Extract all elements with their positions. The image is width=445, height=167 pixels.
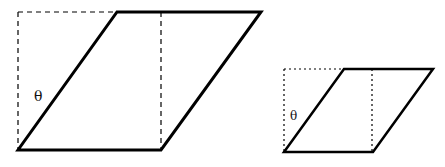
shear-diagram: θ θ [0,0,445,167]
large-parallelogram [18,12,261,150]
large-figure: θ [18,12,261,150]
small-figure: θ [284,69,433,152]
large-theta-label: θ [34,88,42,104]
small-parallelogram [284,69,433,152]
small-theta-label: θ [290,109,297,123]
